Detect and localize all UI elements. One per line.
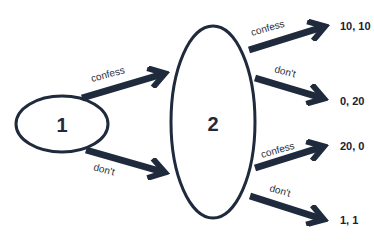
branch-p2-confess-top: confess 10, 10 (249, 18, 371, 50)
branch-p2-dont-top: don't 0, 20 (255, 63, 364, 107)
arrow-icon (255, 78, 322, 98)
branch-p2-dont-bottom: don't 1, 1 (250, 182, 358, 226)
game-tree-diagram: 1 2 confess don't confess 10, 10 don't 0… (0, 0, 374, 245)
payoff-label: 10, 10 (340, 20, 371, 32)
node-2-label: 2 (207, 113, 218, 135)
branch-label: don't (92, 161, 116, 177)
branch-label: don't (268, 182, 292, 199)
branch-label: confess (90, 64, 126, 84)
payoff-label: 20, 0 (340, 140, 364, 152)
payoff-label: 1, 1 (340, 214, 358, 226)
arrow-icon (250, 196, 322, 219)
node-1-label: 1 (56, 114, 67, 136)
node-2: 2 (171, 26, 255, 218)
payoff-label: 0, 20 (340, 95, 364, 107)
branch-p1-dont: don't (86, 150, 163, 178)
branch-p1-confess: confess (82, 64, 163, 98)
node-1: 1 (16, 96, 108, 152)
branch-label: don't (273, 63, 297, 79)
branch-label: confess (250, 18, 286, 38)
branch-p2-confess-bottom: confess 20, 0 (255, 140, 364, 168)
